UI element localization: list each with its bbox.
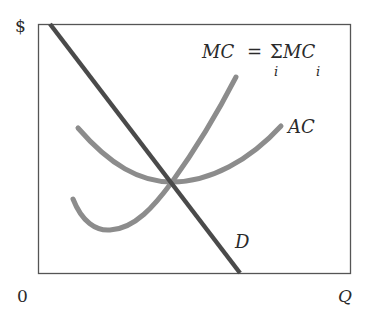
mc-label: MC = Σ MC i i xyxy=(201,41,320,79)
x-axis-label: Q xyxy=(338,286,352,306)
y-axis-label: $ xyxy=(15,16,26,36)
mc-label-sigma-subscript: i xyxy=(274,64,278,79)
demand-label: D xyxy=(234,231,250,252)
mc-curve xyxy=(73,77,236,230)
origin-label: 0 xyxy=(17,286,28,306)
ac-label: AC xyxy=(286,116,315,137)
mc-label-lhs: MC xyxy=(201,41,234,62)
mc-label-rhs: MC xyxy=(282,41,315,62)
mc-label-rhs-subscript: i xyxy=(316,64,320,79)
mc-label-equals: = xyxy=(247,41,262,62)
mc-label-sigma: Σ xyxy=(270,41,283,62)
cost-curve-diagram: $ 0 Q MC = Σ MC i i AC D xyxy=(0,0,374,324)
